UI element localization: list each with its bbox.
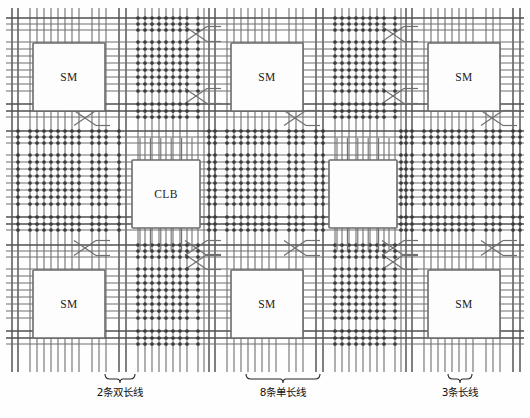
programmable-interconnect-point [484,215,488,219]
programmable-interconnect-point [457,195,461,199]
programmable-interconnect-point [314,195,318,199]
programmable-interconnect-point [63,195,67,199]
programmable-interconnect-point [178,295,182,299]
programmable-interconnect-point [368,267,372,271]
programmable-interconnect-point [518,153,522,157]
programmable-interconnect-point [368,16,372,20]
programmable-interconnect-point [404,141,408,145]
programmable-interconnect-point [171,316,175,320]
programmable-interconnect-point [361,316,365,320]
programmable-interconnect-point [196,75,200,79]
programmable-interconnect-point [35,202,39,206]
programmable-interconnect-point [393,22,397,26]
programmable-interconnect-point [399,174,403,178]
programmable-interconnect-point [267,174,271,178]
programmable-interconnect-point [56,153,60,157]
programmable-interconnect-point [443,135,447,139]
programmable-interconnect-point [260,174,264,178]
programmable-interconnect-point [171,68,175,72]
programmable-interconnect-point [63,129,67,133]
programmable-interconnect-point [49,222,53,226]
programmable-interconnect-point [511,160,515,164]
programmable-interconnect-point [294,135,298,139]
programmable-interconnect-point [457,129,461,133]
programmable-interconnect-point [225,160,229,164]
programmable-interconnect-point [70,135,74,139]
programmable-interconnect-point [354,115,358,119]
programmable-interconnect-point [196,309,200,313]
programmable-interconnect-point [404,195,408,199]
programmable-interconnect-point [42,222,46,226]
programmable-interconnect-point [347,40,351,44]
programmable-interconnect-point [104,141,108,145]
programmable-interconnect-point [164,89,168,93]
programmable-interconnect-point [253,141,257,145]
programmable-interconnect-point [150,255,154,259]
programmable-interconnect-point [393,54,397,58]
programmable-interconnect-point [253,195,257,199]
programmable-interconnect-point [136,109,140,113]
programmable-interconnect-point [393,68,397,72]
programmable-interconnect-point [104,195,108,199]
programmable-interconnect-point [143,115,147,119]
programmable-interconnect-point [375,255,379,259]
programmable-interconnect-point [117,215,121,219]
programmable-interconnect-point [97,167,101,171]
programmable-interconnect-point [484,202,488,206]
programmable-interconnect-point [436,174,440,178]
programmable-interconnect-point [382,82,386,86]
programmable-interconnect-point [104,153,108,157]
programmable-interconnect-point [207,135,211,139]
programmable-interconnect-point [491,129,495,133]
programmable-interconnect-point [196,249,200,253]
programmable-interconnect-point [274,129,278,133]
programmable-interconnect-point [35,181,39,185]
programmable-interconnect-point [340,47,344,51]
programmable-interconnect-point [157,336,161,340]
programmable-interconnect-point [77,167,81,171]
programmable-interconnect-point [410,222,414,226]
programmable-interconnect-point [260,215,264,219]
programmable-interconnect-point [429,167,433,171]
programmable-interconnect-point [225,215,229,219]
programmable-interconnect-point [171,329,175,333]
programmable-interconnect-point [196,68,200,72]
channel-group-caption: 8条单长线 [246,374,320,398]
programmable-interconnect-point [213,167,217,171]
programmable-interconnect-point [164,54,168,58]
programmable-interconnect-point [16,181,20,185]
programmable-interconnect-point [42,153,46,157]
programmable-interconnect-point [404,129,408,133]
programmable-interconnect-point [143,274,147,278]
programmable-interconnect-point [375,82,379,86]
programmable-interconnect-point [340,28,344,32]
programmable-interconnect-point [63,215,67,219]
programmable-interconnect-point [185,281,189,285]
programmable-interconnect-point [196,109,200,113]
programmable-interconnect-point [136,22,140,26]
programmable-interconnect-point [267,129,271,133]
programmable-interconnect-point [35,129,39,133]
programmable-interconnect-point [393,243,397,247]
programmable-interconnect-point [143,342,147,346]
programmable-interconnect-point [361,47,365,51]
programmable-interconnect-point [274,160,278,164]
programmable-interconnect-point [157,47,161,51]
programmable-interconnect-point [42,188,46,192]
programmable-interconnect-point [213,222,217,226]
programmable-interconnect-point [321,222,325,226]
programmable-interconnect-point [354,302,358,306]
programmable-interconnect-point [246,228,250,232]
programmable-interconnect-point [491,181,495,185]
programmable-interconnect-point [178,40,182,44]
programmable-interconnect-point [136,40,140,44]
programmable-interconnect-point [368,54,372,58]
programmable-interconnect-point [498,195,502,199]
programmable-interconnect-point [77,181,81,185]
programmable-interconnect-point [178,68,182,72]
programmable-interconnect-point [422,174,426,178]
programmable-interconnect-point [196,89,200,93]
programmable-interconnect-point [491,141,495,145]
programmable-interconnect-point [518,222,522,226]
programmable-interconnect-point [157,288,161,292]
